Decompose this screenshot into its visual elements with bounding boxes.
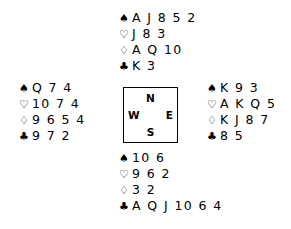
card-list-hearts: J 8 3 xyxy=(132,26,167,42)
compass-label-south: S xyxy=(147,127,155,138)
card-list-spades: Q 7 4 xyxy=(32,80,73,96)
suit-row-spades: ♠ 10 6 xyxy=(119,150,223,166)
diamonds-symbol: ♢ xyxy=(119,183,132,199)
suit-row-spades: ♠ Q 7 4 xyxy=(19,80,86,96)
suit-row-diamonds: ♢ 3 2 xyxy=(119,182,223,198)
card-list-spades: A J 8 5 2 xyxy=(132,10,197,26)
suit-row-spades: ♠ A J 8 5 2 xyxy=(119,10,197,26)
spades-symbol: ♠ xyxy=(19,81,32,97)
suit-row-clubs: ♣ A Q J 10 6 4 xyxy=(119,198,223,214)
card-list-hearts: A K Q 5 xyxy=(220,96,276,112)
diamonds-symbol: ♢ xyxy=(19,113,32,129)
hearts-symbol: ♡ xyxy=(207,97,220,113)
card-list-diamonds: 3 2 xyxy=(132,182,156,198)
compass-box: N W E S xyxy=(123,87,178,143)
hand-east: ♠ K 9 3 ♡ A K Q 5 ♢ K J 8 7 ♣ 8 5 xyxy=(207,80,276,144)
compass-label-east: E xyxy=(166,110,173,121)
spades-symbol: ♠ xyxy=(119,11,132,27)
card-list-diamonds: 9 6 5 4 xyxy=(32,112,86,128)
clubs-symbol: ♣ xyxy=(207,129,220,145)
suit-row-diamonds: ♢ 9 6 5 4 xyxy=(19,112,86,128)
suit-row-clubs: ♣ 8 5 xyxy=(207,128,276,144)
hearts-symbol: ♡ xyxy=(119,27,132,43)
suit-row-clubs: ♣ K 3 xyxy=(119,58,197,74)
hand-north: ♠ A J 8 5 2 ♡ J 8 3 ♢ A Q 10 ♣ K 3 xyxy=(119,10,197,74)
clubs-symbol: ♣ xyxy=(119,199,132,215)
clubs-symbol: ♣ xyxy=(119,59,132,75)
card-list-spades: K 9 3 xyxy=(220,80,259,96)
card-list-diamonds: A Q 10 xyxy=(132,42,183,58)
hand-south: ♠ 10 6 ♡ 9 6 2 ♢ 3 2 ♣ A Q J 10 6 4 xyxy=(119,150,223,214)
suit-row-clubs: ♣ 9 7 2 xyxy=(19,128,86,144)
card-list-hearts: 9 6 2 xyxy=(132,166,171,182)
suit-row-hearts: ♡ A K Q 5 xyxy=(207,96,276,112)
diamonds-symbol: ♢ xyxy=(207,113,220,129)
suit-row-hearts: ♡ 9 6 2 xyxy=(119,166,223,182)
compass-label-west: W xyxy=(128,110,140,121)
compass-label-north: N xyxy=(146,93,155,104)
hearts-symbol: ♡ xyxy=(19,97,32,113)
suit-row-hearts: ♡ 10 7 4 xyxy=(19,96,86,112)
hand-west: ♠ Q 7 4 ♡ 10 7 4 ♢ 9 6 5 4 ♣ 9 7 2 xyxy=(19,80,86,144)
card-list-diamonds: K J 8 7 xyxy=(220,112,270,128)
spades-symbol: ♠ xyxy=(207,81,220,97)
card-list-clubs: 9 7 2 xyxy=(32,128,71,144)
bridge-deal-diagram: ♠ A J 8 5 2 ♡ J 8 3 ♢ A Q 10 ♣ K 3 ♠ Q 7… xyxy=(0,0,291,229)
hearts-symbol: ♡ xyxy=(119,167,132,183)
suit-row-spades: ♠ K 9 3 xyxy=(207,80,276,96)
clubs-symbol: ♣ xyxy=(19,129,32,145)
suit-row-diamonds: ♢ K J 8 7 xyxy=(207,112,276,128)
card-list-clubs: A Q J 10 6 4 xyxy=(132,198,223,214)
card-list-hearts: 10 7 4 xyxy=(32,96,80,112)
suit-row-diamonds: ♢ A Q 10 xyxy=(119,42,197,58)
diamonds-symbol: ♢ xyxy=(119,43,132,59)
spades-symbol: ♠ xyxy=(119,151,132,167)
suit-row-hearts: ♡ J 8 3 xyxy=(119,26,197,42)
card-list-clubs: K 3 xyxy=(132,58,156,74)
card-list-clubs: 8 5 xyxy=(220,128,244,144)
card-list-spades: 10 6 xyxy=(132,150,165,166)
